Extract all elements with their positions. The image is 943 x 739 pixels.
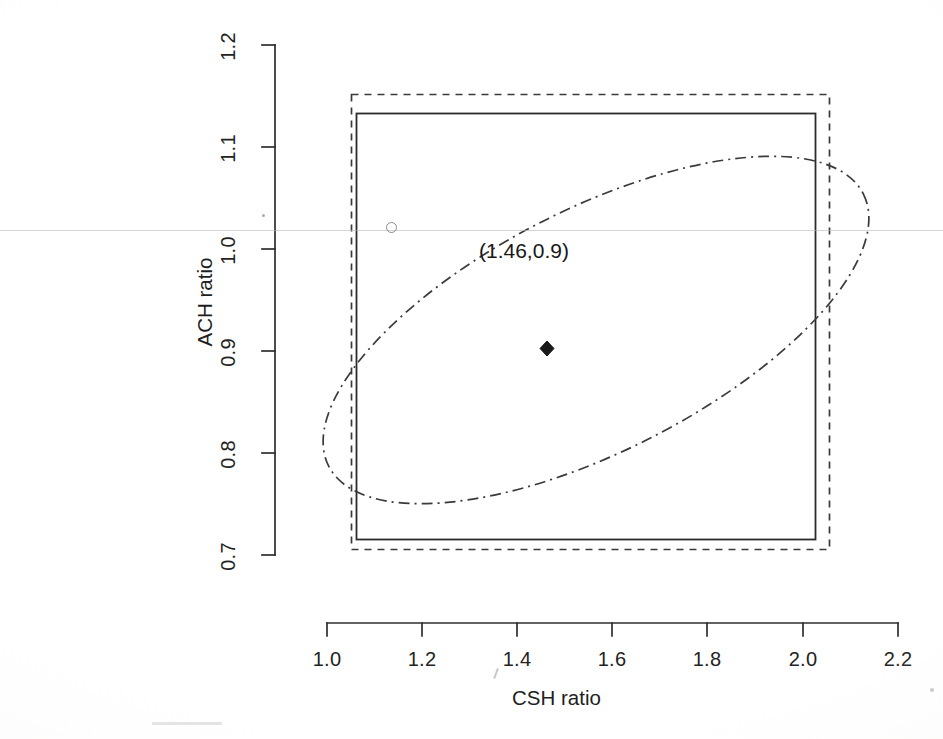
x-tick-label-1.4: 1.4 [494, 648, 540, 671]
x-tick-label-2.2: 2.2 [875, 648, 921, 671]
x-tick-label-1.2: 1.2 [399, 648, 445, 671]
y-axis [262, 45, 275, 555]
y-tick-label-0.8: 0.8 [217, 433, 240, 477]
x-tick-label-1.0: 1.0 [304, 648, 350, 671]
y-tick-label-0.7: 0.7 [217, 535, 240, 579]
y-tick-label-0.9: 0.9 [217, 331, 240, 375]
y-axis-title: ACH ratio [193, 242, 217, 362]
plot-area [0, 0, 943, 739]
x-tick-label-1.6: 1.6 [589, 648, 635, 671]
solid-rectangle-region [357, 114, 816, 540]
dashed-rectangle-region [352, 95, 830, 550]
x-tick-label-1.8: 1.8 [684, 648, 730, 671]
x-axis-title: CSH ratio [512, 686, 712, 710]
data-point-marker [540, 341, 554, 356]
y-tick-label-1.0: 1.0 [217, 229, 240, 273]
figure-canvas: 1.2 1.1 1.0 0.9 0.8 0.7 ACH ratio 1.0 1.… [0, 0, 943, 739]
x-tick-label-2.0: 2.0 [780, 648, 826, 671]
y-tick-label-1.2: 1.2 [217, 25, 240, 69]
y-tick-label-1.1: 1.1 [217, 127, 240, 171]
data-point-annotation: (1.46,0.9) [479, 239, 569, 263]
x-axis [327, 623, 898, 636]
dashdot-ellipse-region [274, 86, 918, 574]
